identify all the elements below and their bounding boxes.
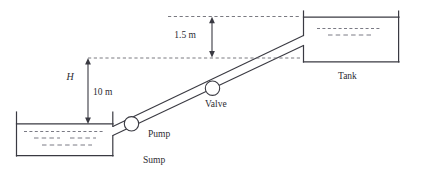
- freeboard-arrowhead-top: [209, 17, 215, 23]
- valve-label: Valve: [205, 99, 227, 109]
- valve-group[interactable]: [205, 81, 219, 95]
- head-symbol-label: H: [65, 71, 74, 82]
- pipe-wall-upper: [113, 36, 304, 127]
- sump-group: [17, 112, 114, 156]
- tank-group: [304, 11, 400, 62]
- freeboard-dimension: 1.5 m: [174, 17, 215, 58]
- freeboard-arrowhead-bottom: [209, 51, 215, 57]
- pump-label: Pump: [148, 129, 170, 139]
- pump-group[interactable]: [124, 117, 138, 131]
- head-arrowhead-bottom: [85, 118, 91, 124]
- tank-label: Tank: [338, 71, 357, 81]
- static-head-dimension: H 10 m: [65, 58, 112, 124]
- freeboard-dimension-label: 1.5 m: [174, 30, 196, 40]
- schematic-canvas: 1.5 m H 10 m Pump Valve Sump Tank: [0, 0, 421, 183]
- head-value-label: 10 m: [93, 87, 113, 97]
- valve-icon[interactable]: [205, 81, 219, 95]
- pump-icon[interactable]: [124, 117, 138, 131]
- pump-system-diagram: 1.5 m H 10 m Pump Valve Sump Tank: [0, 0, 421, 183]
- sump-label: Sump: [143, 155, 165, 165]
- head-arrowhead-top: [85, 58, 91, 64]
